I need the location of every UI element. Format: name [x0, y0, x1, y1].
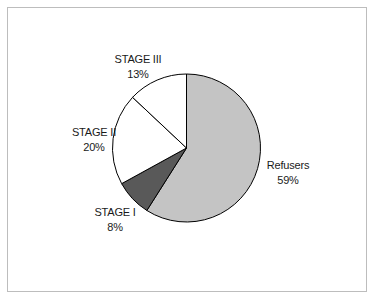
label-refusers-name: Refusers [258, 158, 318, 173]
label-stage-ii-name: STAGE II [64, 125, 124, 140]
label-refusers-value: 59% [258, 173, 318, 188]
pie-slices [112, 74, 260, 222]
label-stage-i: STAGE I 8% [87, 205, 143, 235]
label-stage-ii-value: 20% [64, 140, 124, 155]
label-stage-ii: STAGE II 20% [64, 125, 124, 155]
label-refusers: Refusers 59% [258, 158, 318, 188]
label-stage-iii-name: STAGE III [108, 52, 168, 67]
label-stage-iii-value: 13% [108, 67, 168, 82]
pie-chart [0, 0, 377, 298]
label-stage-i-name: STAGE I [87, 205, 143, 220]
label-stage-iii: STAGE III 13% [108, 52, 168, 82]
label-stage-i-value: 8% [87, 220, 143, 235]
